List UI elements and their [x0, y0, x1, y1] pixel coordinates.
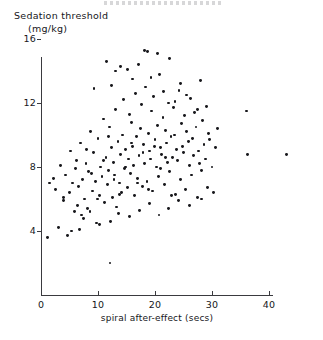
data-point: [197, 150, 200, 153]
data-point: [147, 188, 150, 191]
data-point: [170, 194, 173, 197]
data-point: [57, 226, 60, 229]
data-point: [115, 206, 118, 209]
data-point: [106, 183, 109, 186]
data-point: [94, 180, 97, 183]
y-tick-label: 8: [0, 161, 36, 172]
data-point: [73, 210, 76, 213]
data-point: [131, 145, 134, 148]
data-point: [191, 137, 194, 140]
data-point: [199, 79, 202, 82]
data-point: [211, 166, 214, 169]
data-point: [153, 145, 156, 148]
data-point: [113, 174, 116, 177]
data-point: [159, 167, 162, 170]
data-point: [75, 159, 78, 162]
data-point: [142, 143, 145, 146]
y-tick-label: 12: [0, 97, 36, 108]
data-point: [102, 159, 105, 162]
data-point: [154, 138, 157, 141]
data-point: [168, 57, 171, 60]
x-tick-mark: [155, 291, 156, 295]
data-point: [90, 172, 93, 175]
data-point: [164, 129, 167, 132]
data-point: [78, 228, 81, 231]
data-point: [119, 65, 122, 68]
data-point: [98, 223, 101, 226]
data-point: [146, 180, 149, 183]
data-point: [148, 150, 151, 153]
data-point: [62, 199, 65, 202]
data-point: [182, 151, 185, 154]
data-point: [187, 140, 190, 143]
data-point: [98, 194, 101, 197]
data-point: [110, 84, 113, 87]
data-point: [135, 135, 138, 138]
data-point: [162, 90, 165, 93]
data-point: [158, 214, 161, 217]
data-point: [69, 150, 72, 153]
data-point: [183, 114, 186, 117]
data-point: [142, 151, 145, 154]
data-point: [107, 135, 110, 138]
data-point: [91, 190, 94, 193]
data-point: [163, 183, 166, 186]
data-point: [198, 162, 201, 165]
data-point: [114, 108, 117, 111]
data-point: [200, 169, 203, 172]
y-tick-mark: [37, 231, 41, 232]
data-point: [97, 137, 100, 140]
data-point: [179, 178, 182, 181]
x-axis-title: spiral after-effect (secs): [41, 313, 273, 323]
data-point: [201, 119, 204, 122]
data-point: [160, 153, 163, 156]
data-point: [77, 185, 80, 188]
data-point: [173, 134, 176, 137]
data-point: [146, 50, 149, 53]
data-point: [102, 118, 105, 121]
x-tick-label: 30: [197, 299, 227, 310]
data-point: [109, 220, 112, 223]
data-point: [111, 196, 114, 199]
data-point: [122, 98, 125, 101]
data-point: [158, 73, 161, 76]
data-point: [162, 116, 165, 119]
data-point: [192, 154, 195, 157]
data-point: [149, 158, 152, 161]
data-point: [136, 182, 139, 185]
data-point: [134, 92, 137, 95]
data-point: [110, 146, 113, 149]
data-point: [151, 190, 154, 193]
data-point: [245, 110, 248, 113]
data-point: [150, 76, 153, 79]
y-tick-mark: [37, 39, 41, 40]
y-tick-label: 4: [0, 225, 36, 236]
data-point: [143, 162, 146, 165]
data-point: [93, 87, 96, 90]
data-point: [196, 196, 199, 199]
data-point: [89, 130, 92, 133]
data-point: [176, 159, 179, 162]
data-point: [138, 154, 141, 157]
data-point: [285, 153, 288, 156]
data-point: [89, 210, 92, 213]
data-point: [114, 70, 117, 73]
y-tick-mark: [37, 167, 41, 168]
x-tick-label: 20: [140, 299, 170, 310]
data-point: [170, 135, 173, 138]
data-point: [157, 175, 160, 178]
data-point: [177, 199, 180, 202]
data-point: [136, 177, 139, 180]
x-tick-label: 0: [26, 299, 56, 310]
data-point: [105, 60, 108, 63]
data-point: [137, 63, 140, 66]
data-point: [96, 198, 99, 201]
data-point: [150, 110, 153, 113]
x-axis-line: [41, 295, 273, 296]
data-point: [178, 89, 181, 92]
data-point: [174, 100, 177, 103]
data-point: [185, 94, 188, 97]
data-point: [200, 198, 203, 201]
data-point: [159, 146, 162, 149]
data-point: [68, 191, 71, 194]
